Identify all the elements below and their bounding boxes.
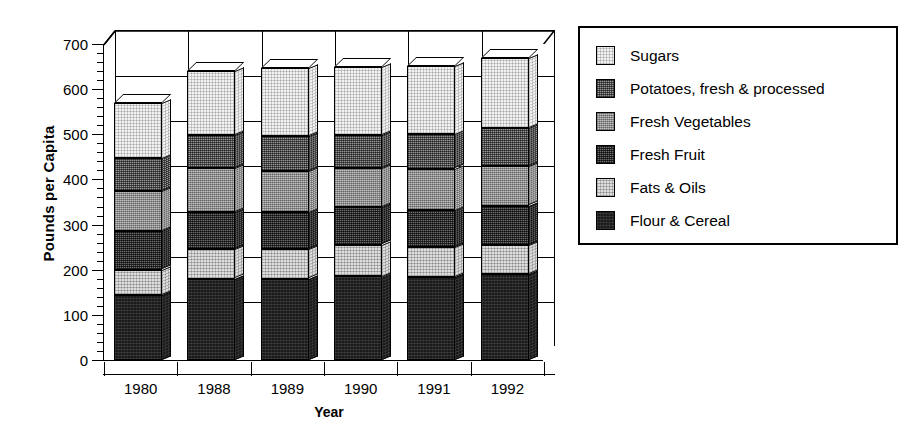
bar-segment-flour-cereal-1991[interactable] bbox=[407, 277, 455, 360]
bar-segment-side-flour-cereal-1980 bbox=[162, 291, 171, 360]
bar-segment-sugars-1988[interactable] bbox=[187, 71, 235, 135]
legend-item-fats-oils[interactable]: Fats & Oils bbox=[596, 171, 888, 204]
bar-segment-fresh-vegetables-1980[interactable] bbox=[114, 191, 162, 231]
bar-segment-potatoes-fresh-processed-1990[interactable] bbox=[334, 135, 382, 168]
bar-segment-fats-oils-1990[interactable] bbox=[334, 245, 382, 277]
bar-segment-side-potatoes-fresh-processed-1988 bbox=[235, 131, 244, 168]
bar-segment-side-fresh-vegetables-1989 bbox=[309, 167, 318, 212]
bar-segment-side-sugars-1980 bbox=[162, 99, 171, 158]
bar-segment-fresh-fruit-1990[interactable] bbox=[334, 207, 382, 244]
bar-segment-potatoes-fresh-processed-1991[interactable] bbox=[407, 134, 455, 168]
bar-segment-side-flour-cereal-1992 bbox=[529, 271, 538, 360]
bar-segment-side-fats-oils-1980 bbox=[162, 266, 171, 294]
bar-top-cap-1980 bbox=[114, 94, 171, 103]
bar-segment-fresh-vegetables-1990[interactable] bbox=[334, 168, 382, 207]
legend-label: Fats & Oils bbox=[630, 178, 706, 197]
bar-segment-fresh-vegetables-1988[interactable] bbox=[187, 168, 235, 212]
bar-1988[interactable] bbox=[187, 30, 235, 370]
bar-segment-flour-cereal-1980[interactable] bbox=[114, 295, 162, 360]
bars-layer bbox=[103, 30, 555, 370]
bar-segment-side-fresh-fruit-1988 bbox=[235, 209, 244, 250]
x-axis-label-1991: 1991 bbox=[399, 380, 469, 397]
bar-segment-sugars-1991[interactable] bbox=[407, 66, 455, 135]
bar-segment-fats-oils-1991[interactable] bbox=[407, 247, 455, 277]
bar-segment-sugars-1990[interactable] bbox=[334, 67, 382, 135]
bar-segment-fats-oils-1980[interactable] bbox=[114, 270, 162, 295]
y-axis-tick-major bbox=[92, 315, 103, 316]
bar-segment-fresh-vegetables-1989[interactable] bbox=[261, 171, 309, 213]
bar-segment-side-flour-cereal-1988 bbox=[235, 275, 244, 360]
bar-segment-sugars-1989[interactable] bbox=[261, 68, 309, 136]
y-axis-tick-major bbox=[92, 360, 103, 361]
bar-segment-fresh-vegetables-1991[interactable] bbox=[407, 169, 455, 211]
legend-item-flour-cereal[interactable]: Flour & Cereal bbox=[596, 204, 888, 237]
x-axis-tick bbox=[251, 362, 252, 376]
legend-label: Fresh Fruit bbox=[630, 145, 705, 164]
bar-segment-fresh-fruit-1989[interactable] bbox=[261, 212, 309, 249]
bar-segment-potatoes-fresh-processed-1988[interactable] bbox=[187, 135, 235, 168]
bar-segment-side-fats-oils-1990 bbox=[382, 241, 391, 276]
bar-segment-potatoes-fresh-processed-1980[interactable] bbox=[114, 158, 162, 191]
bar-segment-fats-oils-1989[interactable] bbox=[261, 249, 309, 278]
legend-item-sugars[interactable]: Sugars bbox=[596, 39, 888, 72]
legend: SugarsPotatoes, fresh & processedFresh V… bbox=[578, 26, 898, 245]
y-axis-tick-label: 600 bbox=[40, 82, 88, 97]
x-axis-label-1988: 1988 bbox=[179, 380, 249, 397]
bar-1992[interactable] bbox=[481, 30, 529, 370]
y-axis-tick-label: 0 bbox=[40, 353, 88, 368]
legend-swatch-fresh-fruit bbox=[596, 145, 615, 164]
bar-segment-sugars-1980[interactable] bbox=[114, 103, 162, 159]
x-axis-tick bbox=[324, 362, 325, 376]
bar-segment-potatoes-fresh-processed-1989[interactable] bbox=[261, 136, 309, 171]
bar-top-cap-1989 bbox=[261, 59, 318, 68]
bar-1980[interactable] bbox=[114, 30, 162, 370]
bar-segment-fats-oils-1988[interactable] bbox=[187, 249, 235, 278]
legend-label: Sugars bbox=[630, 46, 679, 65]
legend-label: Potatoes, fresh & processed bbox=[630, 79, 825, 98]
legend-swatch-fats-oils bbox=[596, 178, 615, 197]
bar-top-cap-1992 bbox=[481, 49, 538, 58]
x-axis-tick bbox=[177, 362, 178, 376]
bar-segment-fresh-vegetables-1992[interactable] bbox=[481, 166, 529, 205]
bar-segment-fresh-fruit-1988[interactable] bbox=[187, 212, 235, 249]
y-axis-tick-label: 700 bbox=[40, 37, 88, 52]
y-axis-tick-label: 500 bbox=[40, 127, 88, 142]
x-axis-tick bbox=[544, 362, 545, 376]
bar-1990[interactable] bbox=[334, 30, 382, 370]
bar-segment-side-fats-oils-1988 bbox=[235, 246, 244, 279]
bar-segment-fresh-fruit-1991[interactable] bbox=[407, 210, 455, 247]
bar-top-cap-1988 bbox=[187, 62, 244, 71]
bar-top-cap-1991 bbox=[407, 57, 464, 66]
bar-segment-flour-cereal-1992[interactable] bbox=[481, 274, 529, 360]
y-axis-tick-major bbox=[92, 134, 103, 135]
bar-segment-side-fresh-fruit-1992 bbox=[529, 202, 538, 245]
bar-segment-flour-cereal-1990[interactable] bbox=[334, 276, 382, 360]
bar-segment-side-flour-cereal-1991 bbox=[455, 274, 464, 360]
legend-label: Fresh Vegetables bbox=[630, 112, 751, 131]
bar-1991[interactable] bbox=[407, 30, 455, 370]
bar-segment-potatoes-fresh-processed-1992[interactable] bbox=[481, 128, 529, 166]
legend-item-potatoes-fresh-processed[interactable]: Potatoes, fresh & processed bbox=[596, 72, 888, 105]
y-axis-tick-label: 300 bbox=[40, 217, 88, 232]
bar-segment-sugars-1992[interactable] bbox=[481, 58, 529, 128]
bar-segment-side-flour-cereal-1989 bbox=[309, 275, 318, 360]
y-axis-tick-major bbox=[92, 89, 103, 90]
bar-1989[interactable] bbox=[261, 30, 309, 370]
bar-segment-side-potatoes-fresh-processed-1989 bbox=[309, 132, 318, 171]
bar-segment-fats-oils-1992[interactable] bbox=[481, 245, 529, 274]
x-axis-tick bbox=[471, 362, 472, 376]
legend-item-fresh-fruit[interactable]: Fresh Fruit bbox=[596, 138, 888, 171]
bar-segment-flour-cereal-1989[interactable] bbox=[261, 279, 309, 360]
bar-segment-side-sugars-1989 bbox=[309, 64, 318, 135]
bar-segment-fresh-fruit-1992[interactable] bbox=[481, 206, 529, 245]
bar-segment-side-fresh-vegetables-1988 bbox=[235, 165, 244, 213]
bar-segment-flour-cereal-1988[interactable] bbox=[187, 279, 235, 360]
bar-segment-side-fresh-vegetables-1991 bbox=[455, 165, 464, 210]
bar-segment-fresh-fruit-1980[interactable] bbox=[114, 231, 162, 269]
x-axis-tick bbox=[104, 362, 105, 376]
bar-segment-side-flour-cereal-1990 bbox=[382, 273, 391, 360]
x-axis-label-1992: 1992 bbox=[472, 380, 542, 397]
legend-item-fresh-vegetables[interactable]: Fresh Vegetables bbox=[596, 105, 888, 138]
bar-segment-side-potatoes-fresh-processed-1980 bbox=[162, 155, 171, 192]
bar-segment-side-fresh-vegetables-1990 bbox=[382, 165, 391, 208]
